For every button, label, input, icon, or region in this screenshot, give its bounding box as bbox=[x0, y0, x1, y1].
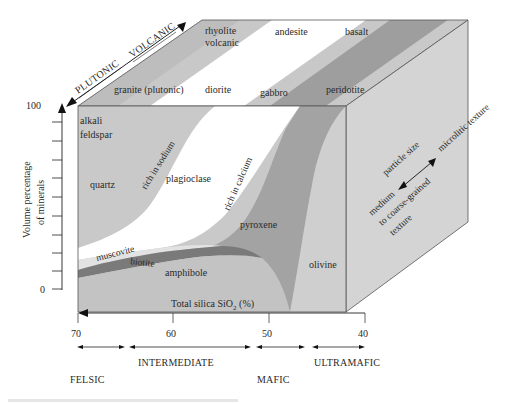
category-range-arrows bbox=[77, 345, 365, 349]
caption-faint bbox=[8, 399, 238, 402]
y-axis-label-line2: of minerals bbox=[35, 180, 46, 225]
rhyolite-volcanic-label: volcanic bbox=[205, 37, 239, 48]
category-ultramafic: ULTRAMAFIC bbox=[314, 357, 380, 368]
peridotite-label: peridotite bbox=[326, 84, 365, 95]
y-tick-0: 0 bbox=[40, 284, 45, 295]
granite-label: granite (plutonic) bbox=[114, 84, 184, 96]
pyroxene-label: pyroxene bbox=[240, 219, 278, 230]
x-tick-60: 60 bbox=[166, 328, 176, 339]
quartz-label: quartz bbox=[90, 179, 116, 190]
arrowhead-plutonic-icon bbox=[66, 97, 77, 107]
alkali-label: alkali bbox=[80, 115, 102, 126]
x-tick-50: 50 bbox=[262, 328, 272, 339]
plagioclase-label: plagioclase bbox=[166, 173, 212, 184]
basalt-label: basalt bbox=[345, 26, 369, 37]
y-axis bbox=[52, 103, 66, 290]
y-axis-arrow-icon bbox=[58, 103, 66, 113]
y-tick-100: 100 bbox=[26, 100, 41, 111]
diorite-label: diorite bbox=[205, 84, 232, 95]
olivine-label: olivine bbox=[309, 259, 337, 270]
category-mafic: MAFIC bbox=[257, 374, 290, 385]
y-axis-label-line1: Volume percentage bbox=[21, 161, 32, 238]
front-face bbox=[78, 106, 346, 312]
x-tick-70: 70 bbox=[71, 328, 81, 339]
andesite-label: andesite bbox=[275, 26, 308, 37]
gabbro-label: gabbro bbox=[260, 87, 288, 98]
amphibole-label: amphibole bbox=[165, 267, 208, 278]
feldspar-label: feldspar bbox=[80, 129, 113, 140]
rhyolite-label: rhyolite bbox=[205, 25, 237, 36]
x-tick-40: 40 bbox=[358, 328, 368, 339]
category-felsic: FELSIC bbox=[70, 374, 105, 385]
igneous-rock-diagram: PLUTONIC VOLCANIC rhyolite volcanic ande… bbox=[0, 0, 510, 404]
category-intermediate: INTERMEDIATE bbox=[138, 357, 214, 368]
